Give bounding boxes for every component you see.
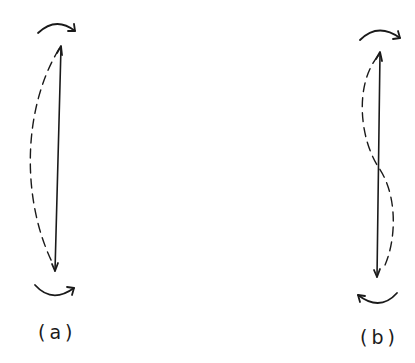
panel-a-label: (a) <box>38 321 76 343</box>
top-moment-arrow-icon <box>360 30 400 40</box>
bottom-moment-arrow-icon <box>358 293 397 303</box>
member-axis <box>374 52 382 277</box>
deflected-shape-single-curvature <box>30 49 59 262</box>
panel-b-label: (b) <box>360 326 399 348</box>
bottom-moment-arrow-icon <box>35 285 74 295</box>
panel-a <box>30 24 75 295</box>
panel-b <box>358 30 400 303</box>
figure-canvas <box>0 0 415 363</box>
top-moment-arrow-icon <box>38 24 75 33</box>
member-axis <box>52 46 62 271</box>
